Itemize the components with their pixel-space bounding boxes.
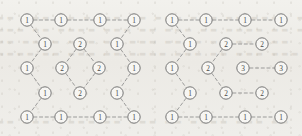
lattice-graphs: 111111111122221111111111122233221111 bbox=[0, 0, 302, 136]
graph-node[interactable]: 1 bbox=[55, 14, 67, 26]
graph-node[interactable]: 1 bbox=[111, 87, 123, 99]
graph-node[interactable]: 2 bbox=[74, 87, 86, 99]
figure-canvas: ▬▬ ▬▬▬ ▬▬ ▬▬▬▬ ▬▬ ▬▬▬ ▬▬▬ ▬▬ ▬▬▬▬ ▬▬▬ ▬▬… bbox=[0, 0, 302, 136]
graph-edge bbox=[212, 74, 222, 88]
graph-node[interactable]: 1 bbox=[128, 62, 140, 74]
node-label: 2 bbox=[206, 64, 210, 73]
node-label: 1 bbox=[25, 113, 29, 122]
node-label: 1 bbox=[98, 113, 102, 122]
node-label: 1 bbox=[43, 40, 47, 49]
graph-node[interactable]: 1 bbox=[94, 111, 106, 123]
graph-node[interactable]: 1 bbox=[39, 38, 51, 50]
graph-edge bbox=[31, 74, 41, 88]
node-label: 1 bbox=[25, 16, 29, 25]
graph-node[interactable]: 1 bbox=[200, 111, 212, 123]
nodes-layer: 111111111122221111111111122233221111 bbox=[21, 14, 287, 123]
graph-node[interactable]: 1 bbox=[166, 62, 178, 74]
graph-edge bbox=[176, 49, 186, 62]
graph-edge bbox=[84, 73, 95, 87]
node-label: 2 bbox=[97, 64, 101, 73]
node-label: 2 bbox=[78, 40, 82, 49]
graph-node[interactable]: 2 bbox=[220, 38, 232, 50]
graph-node[interactable]: 1 bbox=[166, 111, 178, 123]
graph-node[interactable]: 2 bbox=[56, 62, 68, 74]
node-label: 3 bbox=[241, 64, 245, 73]
graph-node[interactable]: 1 bbox=[275, 14, 287, 26]
graph-node[interactable]: 1 bbox=[55, 111, 67, 123]
graph-node[interactable]: 1 bbox=[94, 14, 106, 26]
node-label: 2 bbox=[78, 89, 82, 98]
graph-node[interactable]: 1 bbox=[239, 14, 251, 26]
graph-node[interactable]: 1 bbox=[21, 62, 33, 74]
node-label: 2 bbox=[260, 40, 264, 49]
node-label: 1 bbox=[279, 113, 283, 122]
node-label: 1 bbox=[59, 113, 63, 122]
node-label: 1 bbox=[279, 16, 283, 25]
graph-edge bbox=[121, 26, 130, 39]
node-label: 1 bbox=[25, 64, 29, 73]
graph-node[interactable]: 3 bbox=[275, 62, 287, 74]
graph-node[interactable]: 1 bbox=[21, 111, 33, 123]
graph-node[interactable]: 1 bbox=[39, 87, 51, 99]
node-label: 1 bbox=[115, 89, 119, 98]
graph-edge bbox=[66, 49, 76, 62]
graph-edge bbox=[84, 49, 95, 62]
graph-node[interactable]: 1 bbox=[184, 38, 196, 50]
right-lattice-diagram-edges bbox=[176, 20, 274, 117]
node-label: 3 bbox=[279, 64, 283, 73]
node-label: 1 bbox=[188, 89, 192, 98]
graph-edge bbox=[176, 98, 186, 111]
node-label: 1 bbox=[170, 64, 174, 73]
left-lattice-diagram-edges bbox=[31, 20, 130, 117]
graph-edge bbox=[176, 25, 186, 38]
node-label: 2 bbox=[260, 89, 264, 98]
graph-edge bbox=[31, 49, 41, 62]
graph-node[interactable]: 1 bbox=[275, 111, 287, 123]
node-label: 1 bbox=[132, 113, 136, 122]
graph-node[interactable]: 1 bbox=[128, 111, 140, 123]
node-label: 2 bbox=[224, 89, 228, 98]
graph-node[interactable]: 1 bbox=[128, 14, 140, 26]
node-label: 1 bbox=[243, 16, 247, 25]
graph-node[interactable]: 2 bbox=[93, 62, 105, 74]
node-label: 2 bbox=[224, 40, 228, 49]
node-label: 1 bbox=[59, 16, 63, 25]
graph-node[interactable]: 1 bbox=[166, 14, 178, 26]
graph-edge bbox=[31, 98, 41, 111]
graph-node[interactable]: 2 bbox=[256, 38, 268, 50]
node-label: 1 bbox=[243, 113, 247, 122]
node-label: 2 bbox=[60, 64, 64, 73]
node-label: 1 bbox=[132, 16, 136, 25]
graph-node[interactable]: 2 bbox=[74, 38, 86, 50]
node-label: 1 bbox=[170, 16, 174, 25]
node-label: 1 bbox=[132, 64, 136, 73]
graph-node[interactable]: 1 bbox=[239, 111, 251, 123]
node-label: 1 bbox=[98, 16, 102, 25]
graph-edge bbox=[121, 74, 130, 88]
graph-node[interactable]: 3 bbox=[237, 62, 249, 74]
graph-edge bbox=[31, 25, 41, 38]
left-lattice-diagram-nodes: 111111111122221111 bbox=[21, 14, 140, 123]
graph-edge bbox=[212, 49, 222, 62]
graph-node[interactable]: 1 bbox=[200, 14, 212, 26]
node-label: 1 bbox=[115, 40, 119, 49]
graph-node[interactable]: 2 bbox=[220, 87, 232, 99]
node-label: 1 bbox=[204, 16, 208, 25]
node-label: 1 bbox=[188, 40, 192, 49]
graph-edge bbox=[66, 74, 76, 88]
graph-edge bbox=[121, 99, 130, 112]
right-lattice-diagram-nodes: 111111122233221111 bbox=[166, 14, 287, 123]
graph-node[interactable]: 1 bbox=[21, 14, 33, 26]
node-label: 1 bbox=[204, 113, 208, 122]
graph-node[interactable]: 1 bbox=[111, 38, 123, 50]
graph-edge bbox=[176, 74, 186, 88]
graph-edge bbox=[121, 50, 130, 63]
graph-node[interactable]: 2 bbox=[256, 87, 268, 99]
node-label: 1 bbox=[170, 113, 174, 122]
graph-node[interactable]: 1 bbox=[184, 87, 196, 99]
node-label: 1 bbox=[43, 89, 47, 98]
graph-node[interactable]: 2 bbox=[202, 62, 214, 74]
